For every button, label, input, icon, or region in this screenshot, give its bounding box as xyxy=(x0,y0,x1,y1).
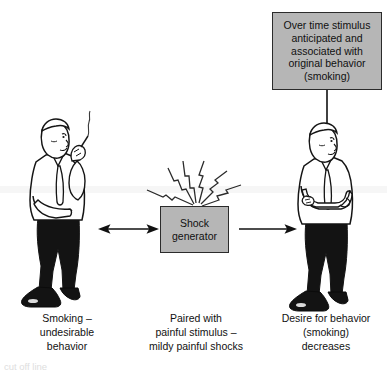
caption-paired-painful-stimulus: Paired with painful stimulus – mildy pai… xyxy=(128,312,264,354)
person-smoking-figure xyxy=(21,111,90,307)
caption-smoking-undesirable: Smoking – undesirable behavior xyxy=(8,312,126,354)
stimulus-association-text: Over time stimulus anticipated and assoc… xyxy=(284,19,371,83)
person-arms-crossed-figure xyxy=(289,123,352,311)
lightning-spark-rays xyxy=(147,161,241,206)
stimulus-association-box: Over time stimulus anticipated and assoc… xyxy=(272,12,382,90)
caption-desire-decreases: Desire for behavior (smoking) decreases xyxy=(266,312,386,354)
shock-generator-box: Shock generator xyxy=(160,206,229,253)
single-right-arrow xyxy=(239,224,297,234)
double-headed-arrow xyxy=(98,224,159,234)
shock-generator-text: Shock generator xyxy=(172,217,217,243)
clipped-bottom-text: cut off line xyxy=(4,361,204,370)
